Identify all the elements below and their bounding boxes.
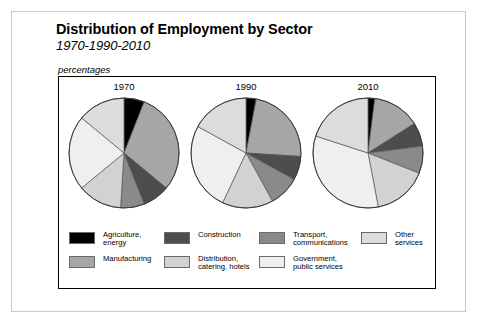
legend-swatch-other bbox=[361, 232, 387, 244]
legend-swatch-distribution bbox=[164, 256, 190, 268]
pie-title-1970: 1970 bbox=[61, 81, 187, 92]
pie-chart-1990 bbox=[183, 95, 309, 215]
pie-panel-1970: 1970 bbox=[61, 81, 187, 217]
legend-label-other: Other services bbox=[395, 231, 423, 248]
page-title: Distribution of Employment by Sector bbox=[56, 21, 456, 38]
legend-label-construction: Construction bbox=[198, 231, 241, 239]
legend-swatch-agriculture bbox=[69, 232, 95, 244]
figure-container: Distribution of Employment by Sector 197… bbox=[11, 11, 466, 312]
units-label: percentages bbox=[58, 64, 110, 75]
pie-title-1990: 1990 bbox=[183, 81, 309, 92]
legend-swatch-manufacturing bbox=[69, 256, 95, 268]
legend-label-transport: Transport, communications bbox=[293, 231, 348, 248]
legend-label-agriculture: Agriculture, energy bbox=[103, 231, 141, 248]
legend-item-manufacturing: Manufacturing bbox=[69, 255, 151, 268]
legend-item-construction: Construction bbox=[164, 231, 241, 244]
pie-svg-1990 bbox=[188, 95, 304, 211]
pie-chart-1970 bbox=[61, 95, 187, 215]
pie-chart-2010 bbox=[305, 95, 431, 215]
pie-svg-1970 bbox=[66, 95, 182, 211]
legend-item-other: Other services bbox=[361, 231, 423, 248]
legend-label-manufacturing: Manufacturing bbox=[103, 255, 151, 263]
legend-item-government: Government, public services bbox=[259, 255, 343, 272]
legend-swatch-transport bbox=[259, 232, 285, 244]
legend-item-agriculture: Agriculture, energy bbox=[69, 231, 141, 248]
title-block: Distribution of Employment by Sector 197… bbox=[56, 21, 456, 53]
pie-title-2010: 2010 bbox=[305, 81, 431, 92]
legend-swatch-government bbox=[259, 256, 285, 268]
legend: Agriculture, energy Manufacturing Constr… bbox=[69, 229, 427, 281]
pie-svg-2010 bbox=[310, 95, 426, 211]
legend-item-distribution: Distribution, catering, hotels bbox=[164, 255, 250, 272]
legend-item-transport: Transport, communications bbox=[259, 231, 348, 248]
legend-label-distribution: Distribution, catering, hotels bbox=[198, 255, 250, 272]
subtitle: 1970-1990-2010 bbox=[56, 38, 456, 53]
pie-panel-2010: 2010 bbox=[305, 81, 431, 217]
pie-panel-1990: 1990 bbox=[183, 81, 309, 217]
legend-label-government: Government, public services bbox=[293, 255, 343, 272]
plot-area: 1970 1990 2010 Agriculture, energy bbox=[58, 76, 436, 289]
legend-swatch-construction bbox=[164, 232, 190, 244]
